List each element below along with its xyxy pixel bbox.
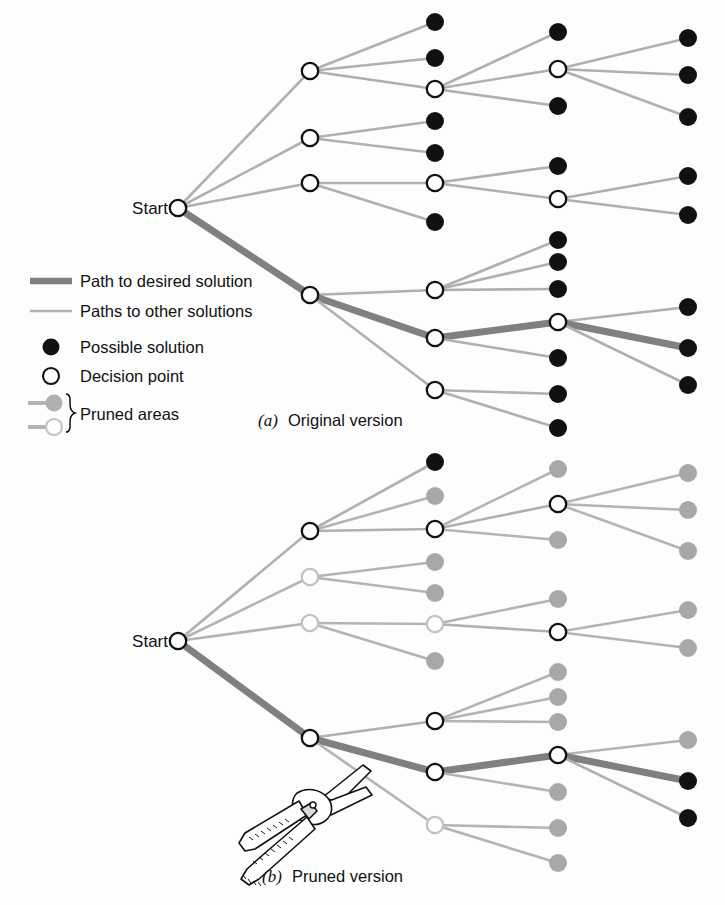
tree-edge xyxy=(435,825,558,863)
decision-node[interactable] xyxy=(550,61,566,77)
solution-node[interactable] xyxy=(549,231,567,249)
decision-node[interactable] xyxy=(170,633,186,649)
decision-node[interactable] xyxy=(302,130,318,146)
pruned-decision-node[interactable] xyxy=(427,616,443,632)
tree-edge xyxy=(558,38,688,69)
solution-node[interactable] xyxy=(426,144,444,162)
decision-node[interactable] xyxy=(550,747,566,763)
tree-edge xyxy=(435,469,558,529)
decision-node[interactable] xyxy=(550,624,566,640)
start-label-panel-b: Start xyxy=(132,632,168,651)
tree-edge xyxy=(310,71,435,89)
solution-node[interactable] xyxy=(426,112,444,130)
tree-edge xyxy=(435,89,558,106)
decision-node[interactable] xyxy=(427,282,443,298)
decision-node[interactable] xyxy=(427,713,443,729)
solution-node[interactable] xyxy=(549,349,567,367)
decision-node[interactable] xyxy=(170,200,186,216)
solution-node[interactable] xyxy=(549,253,567,271)
solution-node[interactable] xyxy=(679,206,697,224)
solution-node[interactable] xyxy=(549,23,567,41)
tree-edge xyxy=(310,138,435,153)
tree-edge xyxy=(310,496,435,531)
solution-node[interactable] xyxy=(679,66,697,84)
decision-node[interactable] xyxy=(302,63,318,79)
decision-node[interactable] xyxy=(550,496,566,512)
pruned-solution-node[interactable] xyxy=(679,601,697,619)
pruned-solution-node[interactable] xyxy=(549,531,567,549)
decision-node[interactable] xyxy=(427,81,443,97)
solution-node[interactable] xyxy=(426,213,444,231)
pruned-decision-node[interactable] xyxy=(302,569,318,585)
solution-node[interactable] xyxy=(426,49,444,67)
legend-item-pruned-areas: Pruned areas xyxy=(28,394,179,435)
tree-edge-desired-path xyxy=(435,322,558,338)
decision-node[interactable] xyxy=(550,314,566,330)
pruned-decision-node[interactable] xyxy=(302,615,318,631)
tree-edge xyxy=(310,623,435,624)
solution-node[interactable] xyxy=(679,376,697,394)
pruned-solution-node[interactable] xyxy=(679,731,697,749)
solution-node[interactable] xyxy=(426,453,444,471)
pruned-solution-node[interactable] xyxy=(549,854,567,872)
pruned-solution-node[interactable] xyxy=(549,460,567,478)
solution-node[interactable] xyxy=(549,280,567,298)
pruned-solution-node[interactable] xyxy=(549,688,567,706)
pruned-solution-node[interactable] xyxy=(679,639,697,657)
tree-edge xyxy=(435,289,558,290)
solution-node[interactable] xyxy=(549,97,567,115)
legend-item-path-desired: Path to desired solution xyxy=(30,272,252,290)
legend-label-path-desired: Path to desired solution xyxy=(80,272,252,290)
solution-node[interactable] xyxy=(549,419,567,437)
pruned-solution-node[interactable] xyxy=(679,501,697,519)
shears-pivot-icon xyxy=(310,802,316,808)
decision-node[interactable] xyxy=(302,523,318,539)
decision-node[interactable] xyxy=(302,287,318,303)
caption-panel-b: (b) Pruned version xyxy=(262,867,403,886)
pruned-solution-node[interactable] xyxy=(549,783,567,801)
legend-item-decision-point: Decision point xyxy=(43,367,184,385)
pruned-solution-node[interactable] xyxy=(679,542,697,560)
diagram-canvas: Start Start xyxy=(0,0,725,905)
decision-node[interactable] xyxy=(550,191,566,207)
solution-node[interactable] xyxy=(549,157,567,175)
open-circle-icon xyxy=(43,368,59,384)
solution-node[interactable] xyxy=(426,13,444,31)
solution-node[interactable] xyxy=(679,339,697,357)
legend-label-pruned-areas: Pruned areas xyxy=(80,405,179,423)
pruned-solution-node[interactable] xyxy=(549,713,567,731)
decision-node[interactable] xyxy=(427,330,443,346)
decision-node[interactable] xyxy=(427,175,443,191)
pruned-solution-node[interactable] xyxy=(549,663,567,681)
tree-edge xyxy=(435,825,558,828)
pruned-solution-node[interactable] xyxy=(679,464,697,482)
decision-node[interactable] xyxy=(427,764,443,780)
tree-edge xyxy=(435,672,558,721)
pruned-solution-node[interactable] xyxy=(426,553,444,571)
tree-edge xyxy=(310,577,435,593)
tree-edge xyxy=(310,183,435,222)
pruned-solution-node[interactable] xyxy=(549,590,567,608)
solution-node[interactable] xyxy=(679,809,697,827)
legend-brace-icon xyxy=(66,394,75,432)
tree-edge xyxy=(310,462,435,531)
decision-node[interactable] xyxy=(302,175,318,191)
solution-node[interactable] xyxy=(549,385,567,403)
pruned-solution-node[interactable] xyxy=(426,487,444,505)
decision-node[interactable] xyxy=(302,730,318,746)
solution-node[interactable] xyxy=(679,298,697,316)
decision-node[interactable] xyxy=(427,521,443,537)
solution-node[interactable] xyxy=(679,772,697,790)
tree-edge xyxy=(558,610,688,632)
legend-label-paths-other: Paths to other solutions xyxy=(80,302,252,320)
solution-node[interactable] xyxy=(679,108,697,126)
solution-node[interactable] xyxy=(679,167,697,185)
solution-node[interactable] xyxy=(679,29,697,47)
pruned-solution-node[interactable] xyxy=(426,584,444,602)
decision-node[interactable] xyxy=(427,382,443,398)
pruned-decision-node[interactable] xyxy=(427,817,443,833)
panel-a-nodes xyxy=(170,13,697,437)
pruned-solution-node[interactable] xyxy=(549,819,567,837)
pruned-solution-node[interactable] xyxy=(426,652,444,670)
tree-edge xyxy=(558,307,688,322)
